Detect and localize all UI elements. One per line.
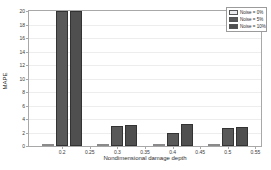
- y-axis-tick-mark: [26, 119, 28, 120]
- legend-swatch: [229, 17, 238, 22]
- bar: [222, 128, 234, 146]
- bar: [111, 126, 123, 146]
- x-axis-tick-label: 0.4: [164, 150, 182, 155]
- y-axis-tick-label: 4: [13, 117, 25, 122]
- legend-swatch: [229, 24, 238, 29]
- y-axis-tick-label: 20: [13, 9, 25, 14]
- x-axis-tick-label: 0.5: [219, 150, 237, 155]
- bar: [97, 144, 109, 146]
- y-axis-tick-label: 12: [13, 63, 25, 68]
- legend-label: Noise = 5%: [240, 17, 263, 22]
- y-axis-tick-label: 2: [13, 131, 25, 136]
- bar: [181, 124, 193, 146]
- legend: Noise = 0%Noise = 5%Noise = 10%: [226, 7, 267, 32]
- y-axis-tick-label: 10: [13, 77, 25, 82]
- bar: [236, 127, 248, 146]
- bar: [56, 11, 68, 146]
- figure: MAPE Nondimensional damage depth Noise =…: [0, 0, 271, 170]
- y-axis-tick-mark: [26, 92, 28, 93]
- x-axis-tick-label: 0.55: [246, 150, 264, 155]
- legend-entry: Noise = 10%: [229, 23, 264, 30]
- y-axis-tick-mark: [26, 133, 28, 134]
- y-axis-tick-label: 14: [13, 50, 25, 55]
- y-axis-tick-mark: [26, 146, 28, 147]
- y-axis-tick-mark: [26, 106, 28, 107]
- x-axis-tick-label: 0.45: [191, 150, 209, 155]
- legend-label: Noise = 10%: [240, 24, 266, 29]
- y-axis-tick-label: 16: [13, 36, 25, 41]
- y-axis-tick-label: 18: [13, 23, 25, 28]
- x-axis-tick-label: 0.2: [53, 150, 71, 155]
- y-axis-tick-mark: [26, 65, 28, 66]
- y-axis-tick-mark: [26, 38, 28, 39]
- bar: [153, 144, 165, 146]
- legend-label: Noise = 0%: [240, 10, 263, 15]
- x-axis-tick-label: 0.25: [81, 150, 99, 155]
- x-axis-tick-label: 0.3: [108, 150, 126, 155]
- y-axis-tick-mark: [26, 11, 28, 12]
- y-axis-label: MAPE: [2, 66, 8, 96]
- bar: [208, 144, 220, 146]
- y-axis-tick-label: 0: [13, 144, 25, 149]
- y-axis-tick-mark: [26, 52, 28, 53]
- bar: [167, 133, 179, 147]
- bar: [42, 144, 54, 146]
- bar: [70, 11, 82, 146]
- y-axis-tick-mark: [26, 79, 28, 80]
- y-axis-tick-mark: [26, 25, 28, 26]
- legend-entry: Noise = 5%: [229, 16, 264, 23]
- x-axis-label: Nondimensional damage depth: [28, 155, 262, 161]
- legend-entry: Noise = 0%: [229, 9, 264, 16]
- y-axis-tick-label: 6: [13, 104, 25, 109]
- bar: [125, 125, 137, 146]
- legend-swatch: [229, 10, 238, 15]
- y-axis-tick-label: 8: [13, 90, 25, 95]
- x-axis-tick-label: 0.35: [136, 150, 154, 155]
